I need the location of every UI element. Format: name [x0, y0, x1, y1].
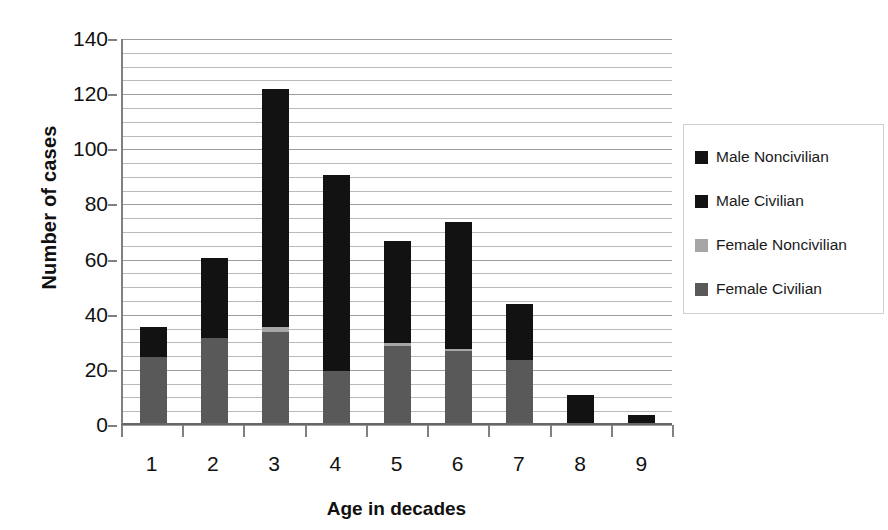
x-axis-tick-cell — [611, 425, 672, 439]
bar-segment[interactable] — [140, 327, 167, 357]
bar-slot — [184, 39, 245, 423]
bar-slot — [489, 39, 550, 423]
bar-segment[interactable] — [506, 360, 533, 423]
x-axis-tick-marks — [121, 425, 672, 439]
legend-item-label: Female Civilian — [716, 280, 822, 298]
legend-swatch-icon — [695, 151, 708, 164]
stacked-bar[interactable] — [323, 175, 350, 423]
bar-segment[interactable] — [323, 371, 350, 423]
y-axis-tick-mark — [108, 315, 117, 317]
x-axis-tick-label: 5 — [366, 452, 427, 476]
y-axis-tick-label: 60 — [85, 248, 108, 272]
x-axis-title: Age in decades — [121, 498, 672, 520]
x-axis-tick-label: 4 — [305, 452, 366, 476]
bar-segment[interactable] — [384, 346, 411, 423]
legend-item[interactable]: Female Civilian — [695, 267, 883, 311]
legend-item-label: Female Noncivilian — [716, 236, 847, 254]
x-axis-tick-label: 6 — [427, 452, 488, 476]
x-axis-tick-mark — [182, 425, 184, 437]
x-axis-tick-cell — [243, 425, 304, 439]
x-axis-tick-mark — [427, 425, 429, 437]
x-axis-tick-label: 8 — [550, 452, 611, 476]
legend: Male NoncivilianMale CivilianFemale Nonc… — [683, 124, 884, 314]
x-axis-tick-label: 9 — [611, 452, 672, 476]
bar-segment[interactable] — [201, 338, 228, 423]
bar-segment[interactable] — [506, 304, 533, 359]
legend-swatch-icon — [695, 283, 708, 296]
x-axis-tick-cell — [488, 425, 549, 439]
x-axis-tick-label: 2 — [182, 452, 243, 476]
bar-slot — [550, 39, 611, 423]
x-axis-tick-cell — [366, 425, 427, 439]
bar-segment[interactable] — [384, 241, 411, 343]
y-axis-tick-label: 120 — [73, 82, 108, 106]
x-axis-tick-label: 7 — [488, 452, 549, 476]
x-axis-tick-mark — [366, 425, 368, 437]
plot-area — [121, 39, 672, 425]
x-axis-tick-label: 3 — [243, 452, 304, 476]
legend-item-label: Male Civilian — [716, 192, 804, 210]
y-axis-tick-label: 40 — [85, 303, 108, 327]
y-axis-tick-label: 100 — [73, 137, 108, 161]
stacked-bar[interactable] — [567, 395, 594, 423]
bar-segment[interactable] — [567, 395, 594, 423]
bar-slot — [245, 39, 306, 423]
x-axis-tick-cell — [305, 425, 366, 439]
bar-segment[interactable] — [201, 258, 228, 338]
bar-slot — [367, 39, 428, 423]
bar-slot — [306, 39, 367, 423]
x-axis-tick-cell — [182, 425, 243, 439]
bar-segment[interactable] — [628, 415, 655, 423]
y-axis-tick-label: 0 — [96, 413, 108, 437]
legend-swatch-icon — [695, 195, 708, 208]
stacked-bar[interactable] — [140, 327, 167, 423]
bar-slot — [611, 39, 672, 423]
bar-segment[interactable] — [262, 89, 289, 326]
legend-item[interactable]: Male Civilian — [695, 179, 883, 223]
bar-slot — [428, 39, 489, 423]
stacked-bar[interactable] — [445, 222, 472, 423]
bar-segment[interactable] — [323, 175, 350, 371]
bar-series-group — [123, 39, 672, 423]
bar-slot — [123, 39, 184, 423]
y-axis-tick-mark — [108, 149, 117, 151]
legend-item[interactable]: Female Noncivilian — [695, 223, 883, 267]
x-axis-tick-mark — [488, 425, 490, 437]
y-axis-tick-mark — [108, 204, 117, 206]
stacked-bar[interactable] — [201, 258, 228, 423]
y-axis-tick-mark — [108, 39, 117, 41]
x-axis-tick-cell — [427, 425, 488, 439]
x-axis-tick-mark — [611, 425, 613, 437]
bar-segment[interactable] — [140, 357, 167, 423]
y-axis-tick-mark — [108, 425, 117, 427]
x-axis-tick-label: 1 — [121, 452, 182, 476]
x-axis-tick-cell — [121, 425, 182, 439]
x-axis-tick-mark-end — [672, 425, 674, 437]
legend-swatch-icon — [695, 239, 708, 252]
y-axis-tick-mark — [108, 260, 117, 262]
stacked-bar[interactable] — [506, 304, 533, 423]
y-axis-tick-labels: 020406080100120140 — [38, 0, 114, 530]
stacked-bar[interactable] — [262, 89, 289, 423]
y-axis-tick-label: 20 — [85, 358, 108, 382]
legend-item[interactable]: Male Noncivilian — [695, 135, 883, 179]
x-axis-tick-cell — [550, 425, 611, 439]
bar-segment[interactable] — [445, 222, 472, 349]
chart-figure: Number of cases 020406080100120140 12345… — [0, 0, 888, 530]
x-axis-tick-mark — [121, 425, 123, 437]
stacked-bar[interactable] — [384, 241, 411, 423]
bar-segment[interactable] — [262, 332, 289, 423]
y-axis-tick-label: 140 — [73, 27, 108, 51]
legend-item-label: Male Noncivilian — [716, 148, 829, 166]
bar-segment[interactable] — [445, 351, 472, 423]
x-axis-tick-mark — [243, 425, 245, 437]
y-axis-tick-label: 80 — [85, 192, 108, 216]
x-axis-tick-labels: 123456789 — [121, 452, 672, 476]
x-axis-tick-mark — [550, 425, 552, 437]
x-axis-tick-mark — [305, 425, 307, 437]
y-axis-tick-mark — [108, 94, 117, 96]
stacked-bar[interactable] — [628, 415, 655, 423]
y-axis-tick-mark — [108, 370, 117, 372]
